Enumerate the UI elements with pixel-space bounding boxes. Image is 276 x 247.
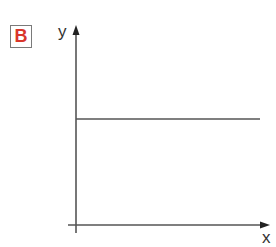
y-axis-arrowhead (73, 25, 80, 35)
axes (68, 25, 270, 233)
chart: y x (0, 0, 276, 247)
x-axis-label: x (262, 228, 271, 247)
y-axis-label: y (58, 22, 67, 41)
